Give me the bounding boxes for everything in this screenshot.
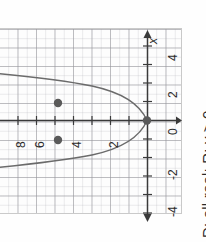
tick-label-y-6: 6 (33, 141, 47, 148)
tick-label-y-2: 2 (107, 141, 121, 148)
domain-range-caption: D: all real; R: y ≥ 0 (199, 111, 206, 238)
plotted-point-lower (54, 136, 62, 144)
axis-label-x: x (146, 38, 160, 44)
tick-label-x-neg4: -4 (166, 206, 180, 217)
tick-label-x-0: 0 (166, 128, 180, 135)
figure-root: 4 2 0 -2 -4 8 6 4 2 x D: all real; R: y … (0, 0, 206, 242)
plotted-point-upper (54, 99, 62, 107)
tick-label-y-4: 4 (70, 141, 84, 148)
tick-label-x-neg2: -2 (166, 169, 180, 180)
tick-label-x-2: 2 (166, 91, 180, 98)
plotted-point-vertex (143, 116, 151, 124)
tick-label-x-4: 4 (166, 54, 180, 61)
tick-label-y-8: 8 (14, 141, 28, 148)
parabola-upper-branch (0, 71, 147, 121)
horizontal-axis (0, 116, 182, 125)
